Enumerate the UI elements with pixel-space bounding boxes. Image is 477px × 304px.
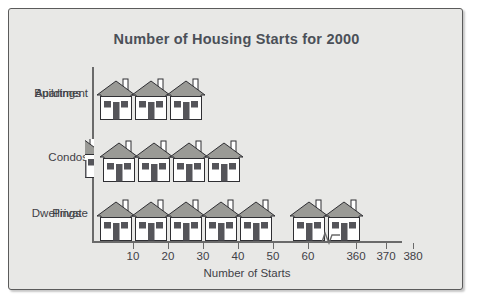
axis-break-icon [314, 229, 340, 245]
x-axis-tick-label: 30 [183, 250, 223, 262]
chart-title: Number of Housing Starts for 2000 [9, 31, 463, 47]
x-axis-tick-label: 20 [148, 250, 188, 262]
house-icon-partial [85, 139, 94, 183]
x-axis-tick-label: 50 [253, 250, 293, 262]
category-label-apartment-buildings: Apartment Buildings [9, 87, 88, 100]
x-axis-tick [413, 243, 414, 249]
house-icon [134, 139, 174, 183]
x-axis-tick [238, 243, 239, 249]
house-icon [96, 77, 136, 121]
x-axis-label: Number of Starts [92, 267, 402, 279]
house-icon [166, 198, 206, 242]
x-axis-tick-label: 380 [393, 250, 433, 262]
house-icon [166, 77, 206, 121]
house-icon [169, 139, 209, 183]
x-axis-tick [386, 243, 387, 249]
category-label-line2: Buildings [9, 87, 81, 100]
x-axis-tick [168, 243, 169, 249]
house-icon [236, 198, 276, 242]
x-axis-tick [203, 243, 204, 249]
chart-frame: Number of Housing Starts for 2000 Apartm… [8, 8, 463, 290]
category-label-line2: Dwellings [9, 207, 81, 220]
house-icon [204, 139, 244, 183]
house-icon [99, 139, 139, 183]
pictograph-chart: Number of Housing Starts for 2000 Apartm… [9, 9, 463, 290]
x-axis-tick [133, 243, 134, 249]
x-axis-tick-label: 60 [288, 250, 328, 262]
x-axis-tick [273, 243, 274, 249]
x-axis-tick [308, 243, 309, 249]
category-label-private-dwellings: Private Dwellings [9, 207, 88, 220]
x-axis-tick [356, 243, 357, 249]
x-axis-tick-label: 10 [113, 250, 153, 262]
house-icon [131, 77, 171, 121]
house-icon [96, 198, 136, 242]
house-icon [201, 198, 241, 242]
x-axis-tick-label: 40 [218, 250, 258, 262]
house-icon [131, 198, 171, 242]
category-label-line1: Condos [16, 151, 88, 164]
